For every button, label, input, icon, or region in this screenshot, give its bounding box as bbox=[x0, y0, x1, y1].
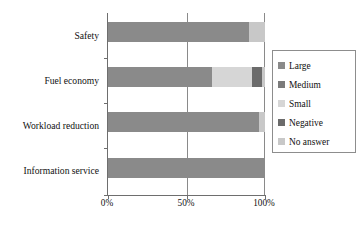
bar-segment-no-answer bbox=[262, 67, 265, 87]
legend-item-small[interactable]: Small bbox=[278, 94, 352, 113]
legend-item-label: Negative bbox=[289, 118, 323, 128]
y-axis-tick-2 bbox=[104, 103, 108, 104]
x-axis-label-100: 100% bbox=[253, 198, 275, 208]
bar-information-service bbox=[108, 158, 265, 178]
plot-area bbox=[107, 13, 265, 196]
bar-safety bbox=[108, 22, 265, 42]
legend-item-large[interactable]: Large bbox=[278, 56, 352, 75]
bar-fuel-economy bbox=[108, 67, 265, 87]
y-axis-tick-1 bbox=[104, 58, 108, 59]
y-axis-label-fuel-economy: Fuel economy bbox=[44, 75, 99, 86]
legend-item-label: Small bbox=[289, 99, 311, 109]
legend-item-label: Medium bbox=[289, 80, 321, 90]
legend-swatch-icon bbox=[278, 138, 285, 145]
legend-item-no-answer[interactable]: No answer bbox=[278, 132, 352, 151]
y-axis-label-information-service: Information service bbox=[24, 165, 99, 176]
legend-item-negative[interactable]: Negative bbox=[278, 113, 352, 132]
stacked-bar-chart: Safety Fuel economy Workload reduction I… bbox=[0, 0, 362, 228]
y-axis-label-safety: Safety bbox=[74, 30, 99, 41]
bar-segment-small bbox=[212, 67, 253, 87]
chart-legend: LargeMediumSmallNegativeNo answer bbox=[272, 50, 356, 153]
x-axis-label-50: 50% bbox=[177, 198, 194, 208]
bar-workload-reduction bbox=[108, 112, 265, 132]
legend-swatch-icon bbox=[278, 119, 285, 126]
y-axis-label-workload-reduction: Workload reduction bbox=[23, 120, 99, 131]
x-axis-label-0: 0% bbox=[101, 198, 113, 208]
legend-item-label: No answer bbox=[289, 137, 329, 147]
bar-segment-no-answer bbox=[249, 22, 265, 42]
legend-item-label: Large bbox=[289, 61, 311, 71]
y-axis-tick-3 bbox=[104, 148, 108, 149]
bar-segment-large bbox=[108, 158, 265, 178]
bar-segment-no-answer bbox=[259, 112, 265, 132]
bar-segment-large bbox=[108, 22, 249, 42]
legend-swatch-icon bbox=[278, 81, 285, 88]
bar-segment-large bbox=[108, 112, 259, 132]
y-axis-labels: Safety Fuel economy Workload reduction I… bbox=[0, 13, 103, 196]
legend-swatch-icon bbox=[278, 100, 285, 107]
x-axis-labels: 0% 50% 100% bbox=[107, 198, 265, 214]
legend-swatch-icon bbox=[278, 62, 285, 69]
bar-segment-negative bbox=[252, 67, 261, 87]
legend-item-medium[interactable]: Medium bbox=[278, 75, 352, 94]
bar-segment-large bbox=[108, 67, 212, 87]
